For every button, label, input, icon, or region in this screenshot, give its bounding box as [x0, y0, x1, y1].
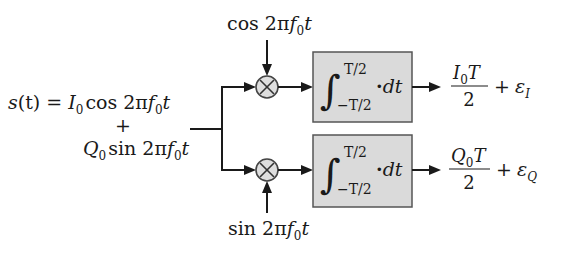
arrow-icon [244, 82, 256, 92]
lower-limit: −T/2 [337, 97, 372, 113]
quadrature-output-expression: Q0T 2 +εQ [449, 145, 537, 193]
freq-sub: 0 [174, 149, 182, 163]
in-phase-output-expression: I0T 2 +εI [451, 62, 530, 110]
time-t: t [182, 137, 190, 159]
multiplier-icon [256, 76, 278, 98]
multiplier-icon [256, 159, 278, 181]
input-line-2: Q0sin 2πf0t [83, 137, 190, 163]
cos-func: cos 2π [85, 91, 147, 113]
freq-sub: 0 [155, 103, 163, 117]
arrow-icon [244, 165, 256, 175]
plus-sign: + [115, 114, 131, 136]
arrow-icon [301, 165, 313, 175]
output-numerator: I0T [452, 62, 482, 87]
output-numerator: Q0T [451, 145, 487, 170]
arrow-icon [262, 64, 272, 76]
sin-func: sin 2π [108, 137, 167, 159]
lower-limit: −T/2 [337, 181, 372, 197]
arrow-icon [429, 82, 441, 92]
arrow-icon [301, 82, 313, 92]
integrand: ·dt [376, 158, 403, 180]
input-signal-expression: s(t) = I0cos 2πf0t + Q0sin 2πf0t [8, 91, 190, 163]
input-line-1: s(t) = I0cos 2πf0t [8, 91, 171, 117]
upper-limit: T/2 [344, 144, 367, 160]
output-error-term: +εI [494, 75, 530, 101]
signal-splitter [190, 82, 256, 175]
signal-arg: (t) [18, 91, 40, 113]
block-diagram: s(t) = I0cos 2πf0t + Q0sin 2πf0t cos 2πf… [0, 0, 566, 253]
i0-sub: 0 [76, 103, 84, 117]
integrand: ·dt [376, 75, 403, 97]
upper-limit: T/2 [344, 61, 367, 77]
integrator-block: ∫ T/2 −T/2 ·dt [313, 135, 412, 207]
time-t: t [163, 91, 171, 113]
output-denominator: 2 [463, 172, 474, 193]
in-phase-branch: cos 2πf0t ∫ T/2 −T/2 ·dt I0T 2 [227, 12, 530, 122]
equals-sign: = [40, 91, 68, 113]
integrator-block: ∫ T/2 −T/2 ·dt [313, 52, 412, 122]
quadrature-branch: sin 2πf0t ∫ T/2 −T/2 ·dt Q0T 2 +εQ [228, 135, 537, 243]
q0-coef: Q [83, 137, 99, 159]
arrow-icon [429, 165, 441, 175]
signal-name: s [8, 91, 18, 113]
output-denominator: 2 [463, 89, 474, 110]
sin-reference-label: sin 2πf0t [228, 217, 309, 243]
q0-sub: 0 [99, 149, 107, 163]
output-error-term: +εQ [496, 158, 537, 184]
cos-reference-label: cos 2πf0t [227, 12, 312, 38]
